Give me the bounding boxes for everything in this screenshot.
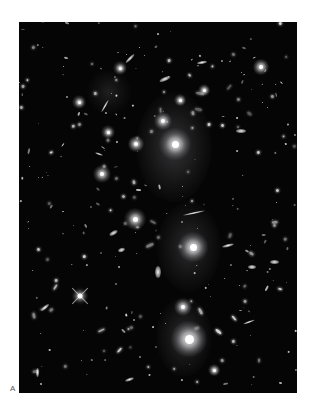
faint-galaxy (280, 82, 283, 84)
faint-galaxy (95, 202, 99, 205)
faint-galaxy (194, 159, 196, 161)
faint-galaxy (283, 237, 286, 240)
faint-galaxy (271, 221, 277, 224)
faint-galaxy (231, 198, 234, 201)
faint-galaxy (170, 31, 171, 32)
faint-galaxy (243, 307, 244, 308)
faint-galaxy (115, 79, 117, 81)
bright-galaxy (185, 335, 194, 344)
faint-galaxy (198, 308, 204, 316)
elongated-galaxy (124, 376, 133, 382)
faint-galaxy (104, 149, 106, 151)
faint-galaxy (95, 187, 99, 191)
faint-galaxy (267, 107, 269, 109)
galaxy-cluster-image (19, 22, 297, 393)
faint-galaxy (278, 22, 282, 25)
faint-galaxy (211, 65, 214, 68)
faint-galaxy (191, 200, 193, 202)
elongated-galaxy (155, 266, 161, 278)
faint-galaxy (180, 221, 182, 223)
faint-galaxy (279, 382, 282, 384)
faint-galaxy (117, 52, 119, 54)
faint-galaxy (21, 29, 25, 30)
faint-galaxy (160, 313, 161, 314)
elongated-galaxy (243, 319, 255, 325)
faint-galaxy (155, 45, 158, 48)
faint-galaxy (94, 92, 97, 95)
bright-galaxy (190, 244, 197, 251)
faint-galaxy (242, 284, 246, 288)
figure: A (0, 0, 315, 414)
faint-galaxy (146, 243, 154, 249)
faint-galaxy (61, 142, 64, 146)
faint-galaxy (199, 55, 202, 58)
faint-galaxy (287, 247, 289, 250)
faint-galaxy (208, 284, 209, 285)
faint-galaxy (273, 280, 274, 281)
faint-galaxy (231, 316, 236, 322)
faint-galaxy (137, 151, 138, 152)
faint-galaxy (165, 323, 166, 324)
faint-galaxy (20, 200, 22, 202)
elongated-galaxy (248, 265, 256, 269)
faint-galaxy (166, 213, 168, 215)
faint-galaxy (20, 106, 24, 110)
faint-galaxy (62, 74, 64, 76)
faint-galaxy (236, 150, 239, 153)
faint-galaxy (262, 234, 266, 236)
faint-galaxy (262, 84, 263, 85)
faint-galaxy (262, 102, 263, 103)
faint-galaxy (134, 25, 137, 28)
faint-galaxy (248, 310, 250, 312)
faint-galaxy (223, 382, 228, 385)
faint-galaxy (207, 123, 210, 126)
faint-galaxy (64, 57, 69, 60)
faint-galaxy (105, 306, 108, 310)
faint-galaxy (220, 123, 223, 126)
faint-galaxy (229, 60, 231, 62)
faint-galaxy (114, 176, 117, 179)
faint-galaxy (48, 202, 51, 205)
faint-galaxy (37, 43, 39, 45)
faint-galaxy (133, 318, 136, 321)
faint-galaxy (162, 71, 163, 72)
faint-galaxy (274, 93, 276, 97)
faint-galaxy (275, 84, 276, 85)
elongated-galaxy (183, 210, 205, 217)
faint-galaxy (239, 310, 242, 312)
faint-galaxy (133, 196, 136, 199)
faint-galaxy (284, 142, 286, 144)
faint-galaxy (241, 72, 242, 73)
faint-galaxy (109, 209, 112, 212)
faint-galaxy (252, 376, 254, 378)
faint-galaxy (242, 175, 244, 177)
faint-galaxy (38, 177, 39, 178)
faint-galaxy (116, 141, 118, 143)
faint-galaxy (71, 264, 72, 265)
faint-galaxy (156, 236, 160, 240)
faint-galaxy (251, 89, 252, 90)
faint-galaxy (86, 263, 88, 265)
faint-galaxy (25, 79, 28, 82)
faint-galaxy (78, 112, 81, 116)
faint-galaxy (264, 239, 268, 244)
faint-galaxy (49, 205, 53, 210)
faint-galaxy (31, 46, 35, 50)
faint-galaxy (240, 80, 244, 85)
faint-galaxy (125, 313, 127, 316)
faint-galaxy (129, 346, 132, 349)
faint-galaxy (147, 366, 150, 369)
faint-galaxy (42, 177, 43, 178)
faint-galaxy (41, 22, 43, 24)
faint-galaxy (144, 55, 145, 56)
elongated-galaxy (197, 60, 207, 65)
faint-galaxy (101, 146, 105, 149)
faint-galaxy (151, 326, 154, 329)
faint-galaxy (111, 93, 112, 94)
faint-galaxy (49, 349, 51, 351)
faint-galaxy (129, 325, 133, 329)
faint-galaxy (182, 196, 183, 197)
faint-galaxy (32, 270, 34, 272)
faint-galaxy (36, 297, 38, 299)
faint-galaxy (163, 91, 166, 94)
